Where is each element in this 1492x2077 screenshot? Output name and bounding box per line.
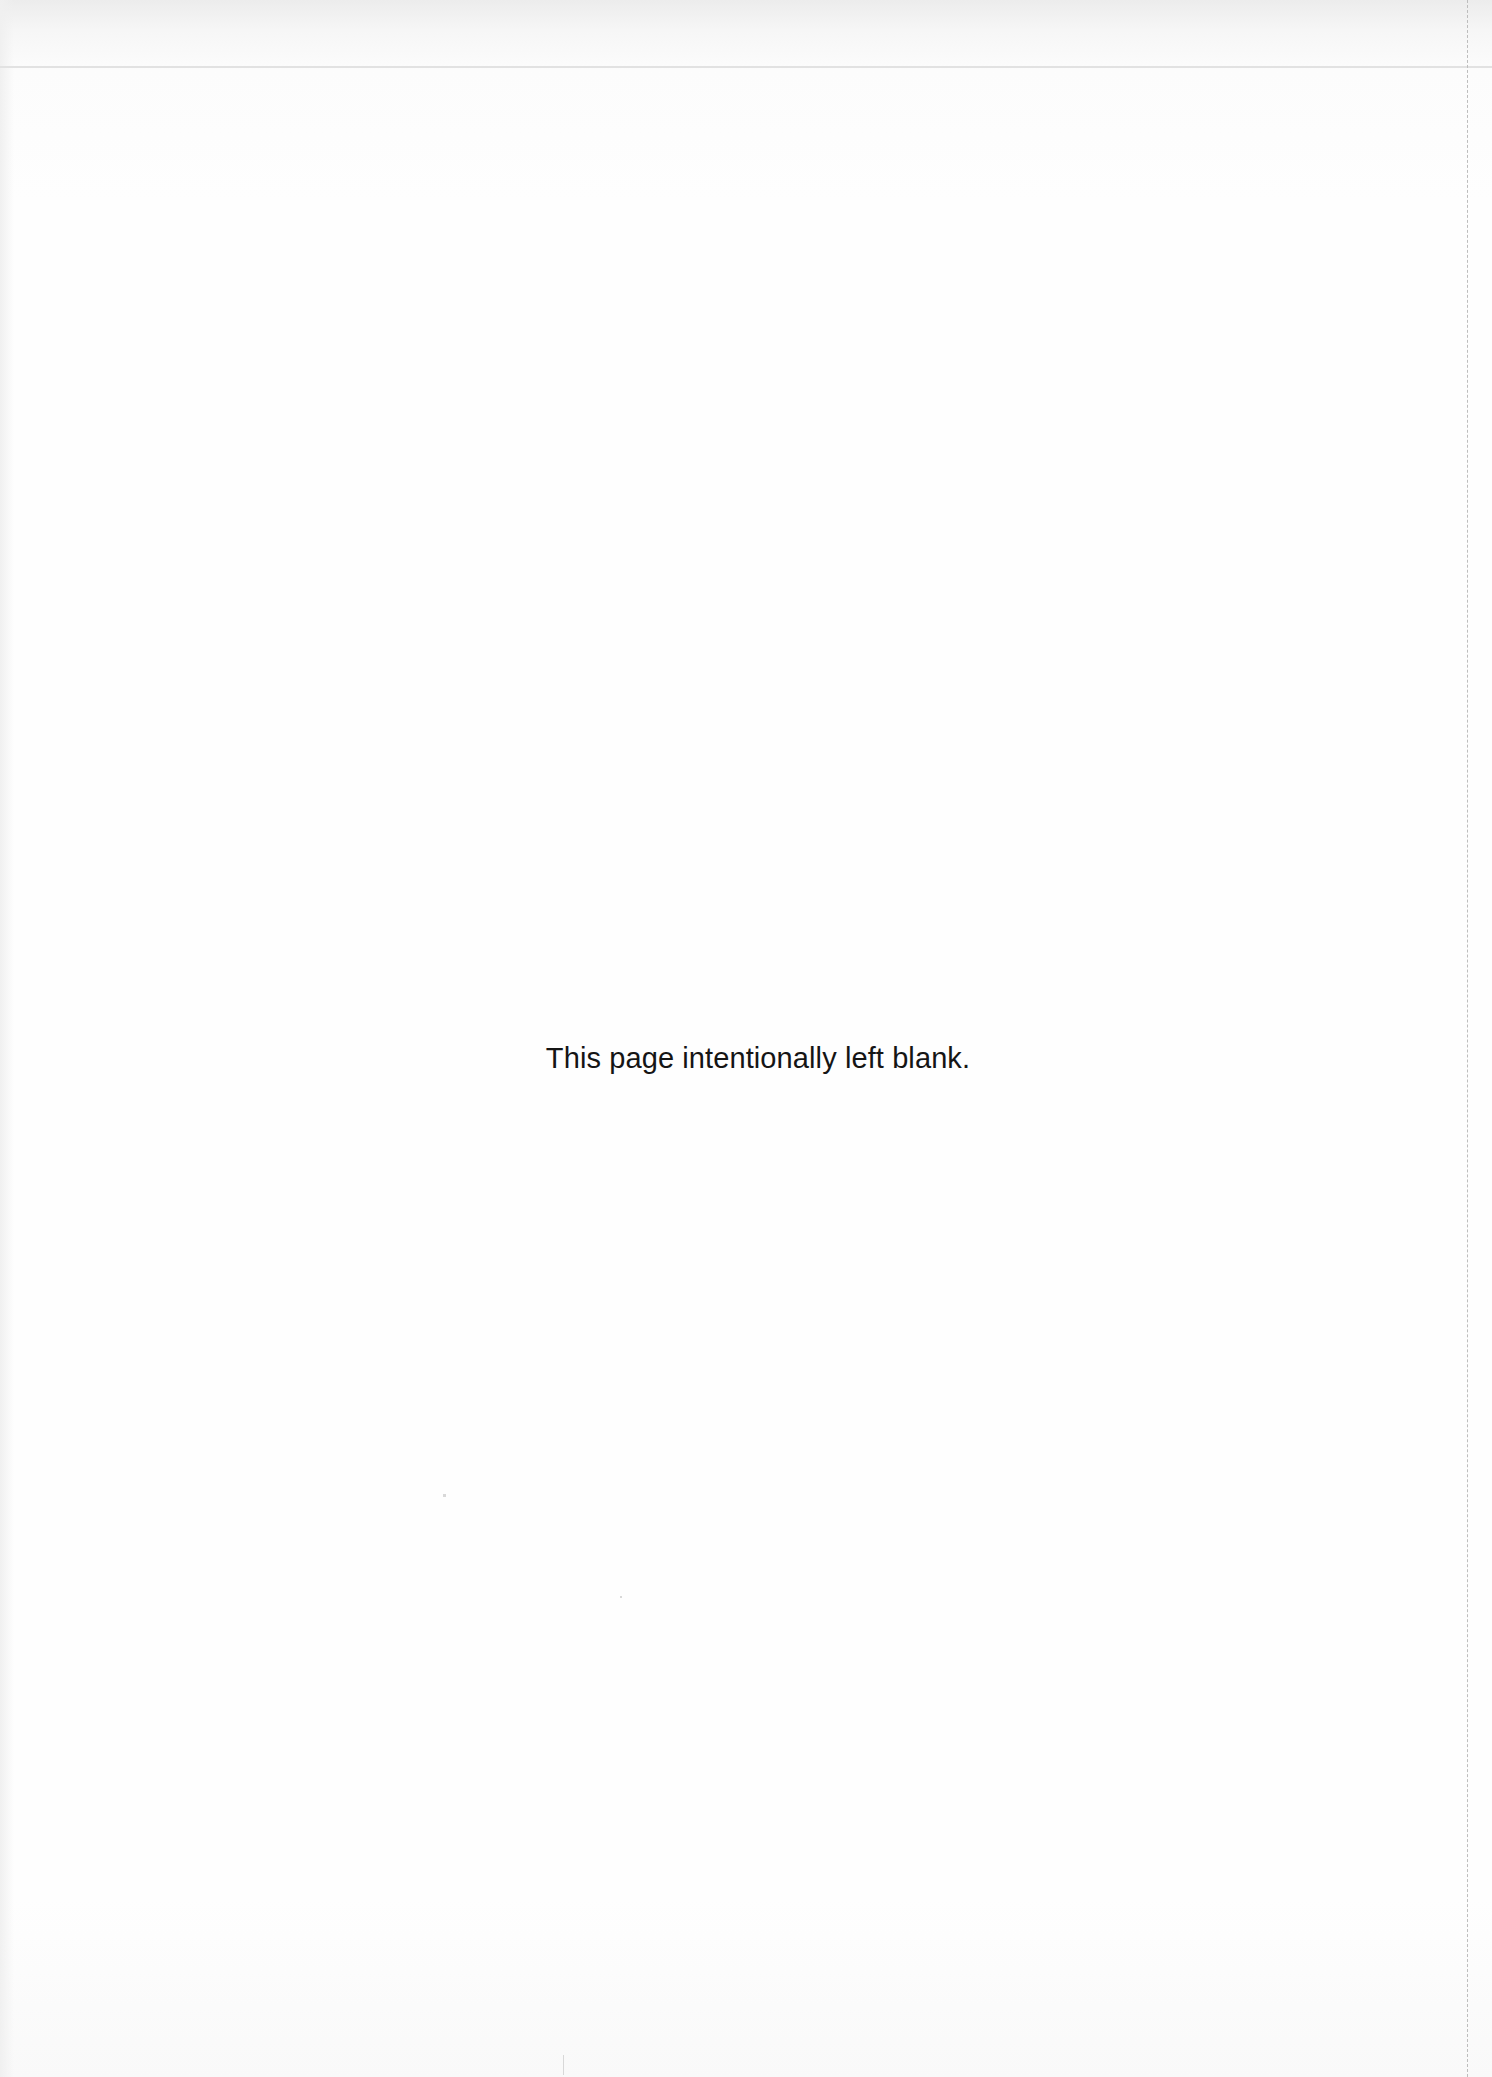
scan-speck — [443, 1494, 446, 1497]
scan-edge-shadow — [0, 0, 14, 2077]
scan-speck — [563, 2055, 564, 2075]
blank-page-notice: This page intentionally left blank. — [0, 1042, 1492, 1075]
scan-speck — [620, 1596, 622, 1598]
fold-line — [1467, 0, 1468, 2077]
blank-page: This page intentionally left blank. — [0, 0, 1492, 2077]
top-rule-line — [0, 66, 1492, 68]
